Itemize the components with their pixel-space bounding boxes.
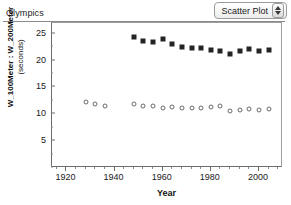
x-tick-label: 1980	[200, 172, 220, 182]
scatter-plot-window: Olympics Scatter Plot 510152025192019401…	[0, 0, 291, 205]
x-tick-minor	[239, 167, 240, 169]
x-tick-minor	[268, 167, 269, 169]
y-tick-minor	[51, 46, 53, 47]
data-point[interactable]	[218, 48, 223, 53]
data-point[interactable]	[208, 47, 213, 52]
plot-frame	[51, 22, 282, 167]
data-point[interactable]	[199, 106, 204, 111]
x-tick-minor	[75, 167, 76, 169]
x-tick-label: 1960	[152, 172, 172, 182]
data-point[interactable]	[189, 45, 194, 50]
data-point[interactable]	[199, 45, 204, 50]
data-point[interactable]	[131, 102, 136, 107]
x-tick-label: 2000	[248, 172, 268, 182]
x-tick-mark	[210, 167, 211, 171]
y-tick-label: 25	[24, 28, 46, 38]
data-point[interactable]	[160, 106, 165, 111]
x-tick-minor	[56, 167, 57, 169]
plot-type-label: Scatter Plot	[221, 6, 272, 16]
data-point[interactable]	[256, 48, 261, 53]
data-point[interactable]	[170, 42, 175, 47]
y-tick-minor	[51, 153, 53, 154]
x-tick-mark	[114, 167, 115, 171]
data-point[interactable]	[218, 103, 223, 108]
y-tick-mark	[51, 59, 55, 60]
triangle-down-icon[interactable]	[275, 11, 281, 15]
x-tick-minor	[85, 167, 86, 169]
x-tick-label: 1920	[55, 172, 75, 182]
x-tick-minor	[229, 167, 230, 169]
y-axis-title-line2: (seconds)	[16, 39, 25, 74]
data-point[interactable]	[256, 108, 261, 113]
data-point[interactable]	[179, 106, 184, 111]
y-tick-minor	[51, 73, 53, 74]
x-tick-mark	[65, 167, 66, 171]
data-point[interactable]	[266, 47, 271, 52]
x-tick-minor	[133, 167, 134, 169]
data-point[interactable]	[102, 103, 107, 108]
data-point[interactable]	[208, 104, 213, 109]
y-tick-label: 20	[24, 55, 46, 65]
y-tick-mark	[51, 86, 55, 87]
x-tick-minor	[277, 167, 278, 169]
x-tick-minor	[219, 167, 220, 169]
data-point[interactable]	[151, 40, 156, 45]
x-tick-minor	[248, 167, 249, 169]
data-point[interactable]	[179, 45, 184, 50]
data-point[interactable]	[237, 48, 242, 53]
data-point[interactable]	[83, 100, 88, 105]
y-tick-label: 15	[24, 81, 46, 91]
triangle-up-icon[interactable]	[275, 6, 281, 10]
data-point[interactable]	[247, 47, 252, 52]
x-tick-minor	[181, 167, 182, 169]
data-point[interactable]	[170, 104, 175, 109]
y-tick-label: 10	[24, 108, 46, 118]
x-tick-minor	[200, 167, 201, 169]
plot-area[interactable]	[52, 23, 281, 166]
plot-type-dropdown[interactable]: Scatter Plot	[214, 2, 287, 19]
y-axis-title: W_100Meter : W_200Meter (seconds)	[6, 0, 26, 137]
x-tick-minor	[171, 167, 172, 169]
y-tick-minor	[51, 126, 53, 127]
data-point[interactable]	[189, 106, 194, 111]
x-tick-minor	[191, 167, 192, 169]
data-point[interactable]	[228, 51, 233, 56]
data-point[interactable]	[228, 109, 233, 114]
y-tick-mark	[51, 140, 55, 141]
y-axis-title-line1: W_100Meter : W_200Meter	[6, 7, 15, 107]
data-point[interactable]	[266, 107, 271, 112]
data-point[interactable]	[131, 34, 136, 39]
y-tick-mark	[51, 32, 55, 33]
data-point[interactable]	[141, 103, 146, 108]
x-tick-mark	[162, 167, 163, 171]
x-tick-label: 1940	[104, 172, 124, 182]
data-point[interactable]	[151, 103, 156, 108]
data-point[interactable]	[160, 37, 165, 42]
data-point[interactable]	[141, 38, 146, 43]
data-point[interactable]	[247, 107, 252, 112]
x-tick-minor	[104, 167, 105, 169]
x-tick-minor	[152, 167, 153, 169]
y-tick-label: 5	[24, 135, 46, 145]
x-tick-mark	[258, 167, 259, 171]
x-tick-minor	[142, 167, 143, 169]
y-tick-minor	[51, 167, 53, 168]
y-tick-mark	[51, 113, 55, 114]
x-tick-minor	[123, 167, 124, 169]
data-point[interactable]	[237, 108, 242, 113]
y-tick-minor	[51, 99, 53, 100]
data-point[interactable]	[93, 102, 98, 107]
x-tick-minor	[94, 167, 95, 169]
x-axis-title: Year	[51, 188, 282, 198]
stepper-control[interactable]	[272, 3, 284, 18]
